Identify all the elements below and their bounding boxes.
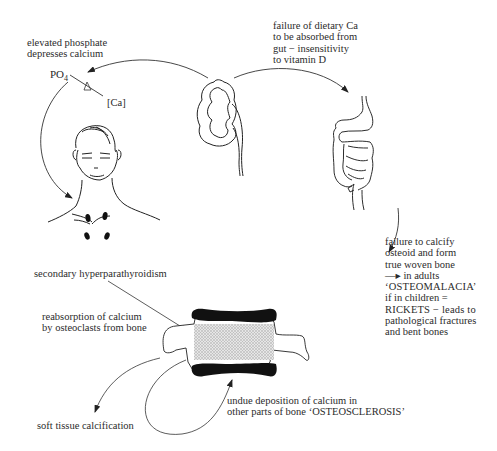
seesaw-balance-icon: [70, 75, 103, 96]
gut-illustration: [333, 96, 373, 210]
hyperparathyroidism-label: secondary hyperparathyroidism: [34, 268, 167, 279]
arrow-kidney-to-phosphate: [88, 60, 208, 78]
po4-symbol: PO4: [50, 68, 68, 83]
phosphate-label: elevated phosphate depresses calcium: [27, 37, 107, 60]
gut-failure-label: failure of dietary Ca to be absorbed fro…: [273, 20, 358, 65]
head-neck-illustration: [48, 126, 160, 224]
arrow-phosphate-to-neck: [41, 82, 72, 198]
soft-tissue-label: soft tissue calcification: [37, 420, 134, 431]
diagram-artwork: [0, 0, 497, 451]
parathyroid-glands: [83, 212, 110, 241]
arrow-kidney-to-gut: [234, 69, 348, 92]
calcium-symbol: [Ca]: [107, 97, 126, 108]
arrow-bone-to-soft-tissue: [95, 358, 160, 412]
kidney-illustration: [197, 80, 243, 176]
vertebra-illustration: [163, 309, 309, 377]
reabsorption-label: reabsorption of calcium by osteoclasts f…: [42, 311, 147, 334]
osteosclerosis-label: undue deposition of calcium in other par…: [227, 395, 405, 418]
osteomalacia-label: failure to calcify osteoid and form true…: [385, 236, 476, 338]
